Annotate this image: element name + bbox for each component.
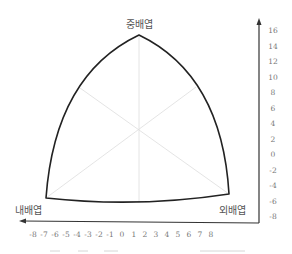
guide-line-right-diagonal [80,88,229,194]
x-axis-ticks: -8 -7 -6 -5 -4 -3 -2 -1 0 1 2 3 4 5 6 7 … [29,230,213,239]
y-tick: 6 [271,104,276,113]
y-tick: 4 [271,119,276,128]
y-tick: 8 [271,88,276,97]
triangle-outline [46,35,229,202]
x-tick: 7 [198,230,203,239]
x-tick: 6 [187,230,192,239]
y-tick: -4 [269,181,277,190]
x-tick: -3 [84,230,92,239]
x-tick: 0 [120,230,125,239]
y-tick: 10 [268,73,278,82]
x-tick: -4 [73,230,81,239]
x-tick: -1 [106,230,113,239]
x-tick: 8 [209,230,214,239]
x-tick: 5 [176,230,181,239]
y-tick: 2 [271,135,276,144]
y-tick: 0 [271,150,276,159]
label-ectoderm: 외배엽 [219,205,246,216]
guide-line-left-diagonal [46,87,196,198]
inner-guide-lines [46,35,229,203]
label-mesoderm: 중배엽 [126,19,153,30]
x-tick: 2 [143,230,148,239]
label-endoderm: 내배엽 [15,205,42,216]
x-tick: 4 [165,230,170,239]
y-tick: 14 [268,42,278,51]
y-tick: -2 [269,166,277,175]
x-tick: -5 [62,230,70,239]
x-tick: -6 [51,230,59,239]
y-axis-arrow-icon [257,18,262,25]
x-tick: 3 [154,230,159,239]
x-axis-line [22,221,259,223]
y-tick: -8 [269,212,277,221]
x-tick: -2 [95,230,103,239]
x-tick: -8 [29,230,37,239]
y-axis-ticks: 16 14 12 10 8 6 4 2 0 -2 -4 -6 -8 [268,26,278,221]
germ-layer-diagram: 중배엽 내배엽 외배엽 16 14 12 10 8 6 4 2 0 -2 -4 … [0,0,292,254]
x-tick: -7 [40,230,48,239]
y-tick: 12 [268,57,278,66]
axes [22,23,259,223]
x-axis-arrow-icon [19,219,26,224]
x-tick: 1 [132,230,137,239]
y-tick: -6 [269,197,277,206]
y-tick: 16 [268,26,278,35]
